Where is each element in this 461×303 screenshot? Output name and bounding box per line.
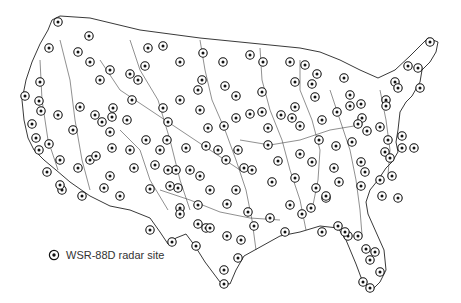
radar-site-marker-icon <box>48 249 60 261</box>
radar-site-marker-icon <box>166 182 174 190</box>
radar-site-marker-icon <box>74 164 82 172</box>
radar-site-marker-icon <box>366 284 374 292</box>
radar-site-marker-icon <box>234 146 242 154</box>
radar-site-marker-icon <box>394 194 402 202</box>
radar-site-marker-icon <box>182 144 190 152</box>
radar-site-marker-icon <box>198 76 206 84</box>
radar-site-marker-icon <box>318 116 326 124</box>
radar-site-marker-icon <box>159 104 167 112</box>
radar-site-marker-icon <box>376 268 384 276</box>
radar-site-marker-icon <box>223 200 231 208</box>
radar-site-marker-icon <box>219 58 227 66</box>
radar-site-marker-icon <box>21 92 29 100</box>
radar-site-marker-icon <box>91 111 99 119</box>
radar-site-marker-icon <box>56 156 64 164</box>
radar-site-marker-icon <box>92 152 100 160</box>
legend: WSR-88D radar site <box>48 249 164 261</box>
radar-site-marker-icon <box>359 278 367 286</box>
radar-site-marker-icon <box>214 146 222 154</box>
radar-site-marker-icon <box>232 114 240 122</box>
radar-site-marker-icon <box>258 88 266 96</box>
legend-label: WSR-88D radar site <box>66 249 164 261</box>
radar-site-marker-icon <box>192 242 200 250</box>
radar-site-marker-icon <box>301 61 309 69</box>
radar-site-marker-icon <box>186 166 194 174</box>
radar-site-marker-icon <box>204 124 212 132</box>
radar-site-marker-icon <box>354 120 362 128</box>
radar-site-marker-icon <box>108 144 116 152</box>
radar-site-marker-icon <box>291 103 299 111</box>
radar-site-marker-icon <box>298 210 306 218</box>
radar-site-marker-icon <box>164 118 172 126</box>
radar-site-marker-icon <box>176 210 184 218</box>
radar-site-marker-icon <box>232 186 240 194</box>
radar-site-marker-icon <box>386 154 394 162</box>
radar-site-marker-icon <box>220 266 228 274</box>
radar-site-marker-icon <box>354 232 362 240</box>
radar-site-marker-icon <box>398 132 406 140</box>
radar-site-marker-icon <box>318 228 326 236</box>
radar-site-marker-icon <box>220 280 228 288</box>
radar-site-marker-icon <box>43 168 51 176</box>
radar-site-marker-icon <box>264 124 272 132</box>
radar-site-marker-icon <box>357 158 365 166</box>
radar-site-marker-icon <box>330 164 338 172</box>
radar-site-marker-icon <box>250 222 258 230</box>
radar-site-marker-icon <box>366 256 374 264</box>
radar-site-marker-icon <box>146 226 154 234</box>
radar-site-marker-icon <box>296 150 304 158</box>
radar-site-marker-icon <box>176 58 184 66</box>
radar-site-marker-icon <box>141 62 149 70</box>
radar-site-marker-icon <box>232 92 240 100</box>
radar-site-marker-icon <box>36 78 44 86</box>
radar-site-marker-icon <box>376 123 384 131</box>
radar-site-marker-icon <box>144 44 152 52</box>
radar-site-marker-icon <box>234 254 242 262</box>
radar-site-marker-icon <box>151 161 159 169</box>
radar-site-marker-icon <box>45 140 53 148</box>
radar-site-marker-icon <box>334 222 342 230</box>
radar-site-marker-icon <box>240 164 248 172</box>
radar-site-marker-icon <box>56 181 64 189</box>
radar-site-marker-icon <box>268 178 276 186</box>
radar-site-marker-icon <box>126 146 134 154</box>
radar-site-marker-icon <box>37 107 45 115</box>
radar-site-marker-icon <box>35 97 43 105</box>
radar-site-marker-icon <box>346 91 354 99</box>
radar-site-marker-icon <box>128 96 136 104</box>
radar-site-marker-icon <box>108 113 116 121</box>
radar-site-marker-icon <box>221 82 229 90</box>
radar-site-marker-icon <box>414 64 422 72</box>
radar-site-marker-icon <box>78 192 86 200</box>
radar-site-marker-icon <box>223 232 231 240</box>
radar-site-marker-icon <box>357 100 365 108</box>
radar-site-marker-icon <box>363 127 371 135</box>
radar-site-marker-icon <box>313 70 321 78</box>
radar-site-marker-icon <box>202 142 210 150</box>
radar-site-marker-icon <box>341 228 349 236</box>
radar-site-marker-icon <box>199 49 207 57</box>
radar-site-marker-icon <box>281 228 289 236</box>
radar-site-marker-icon <box>196 106 204 114</box>
radar-site-marker-icon <box>54 111 62 119</box>
radar-site-marker-icon <box>410 144 418 152</box>
radar-site-marker-icon <box>45 44 53 52</box>
radar-site-marker-icon <box>333 108 341 116</box>
radar-site-marker-icon <box>357 182 365 190</box>
radar-site-marker-icon <box>264 141 272 149</box>
radar-site-marker-icon <box>86 58 94 66</box>
radar-site-marker-icon <box>286 58 294 66</box>
radar-site-marker-icon <box>259 58 267 66</box>
radar-site-marker-icon <box>222 156 230 164</box>
radar-site-marker-icon <box>244 208 252 216</box>
radar-site-marker-icon <box>266 214 274 222</box>
radar-site-marker-icon <box>308 80 316 88</box>
radar-site-marker-icon <box>35 146 43 154</box>
radar-site-marker-icon <box>311 93 319 101</box>
radar-site-marker-icon <box>378 192 386 200</box>
radar-site-marker-icon <box>416 84 424 92</box>
radar-site-marker-icon <box>246 110 254 118</box>
radar-site-marker-icon <box>168 238 176 246</box>
radar-site-marker-icon <box>176 96 184 104</box>
radar-site-marker-icon <box>286 201 294 209</box>
